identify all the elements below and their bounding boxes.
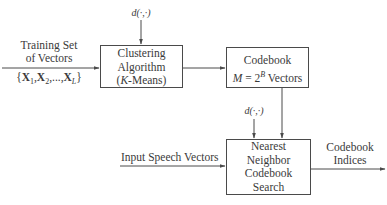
output-label: Codebook Indices: [318, 141, 382, 167]
search-line4: Search: [226, 181, 311, 195]
output-line1: Codebook: [318, 141, 382, 154]
input-speech-label: Input Speech Vectors: [121, 151, 221, 164]
diagram-canvas: [0, 0, 387, 205]
clustering-line2: Algorithm: [100, 61, 183, 75]
search-line1: Nearest: [226, 140, 311, 154]
search-box-text: Nearest Neighbor Codebook Search: [226, 140, 311, 194]
codebook-line2: M = 2B Vectors: [226, 68, 309, 85]
search-line3: Codebook: [226, 167, 311, 181]
training-set-notation: {X1,X2,...,XL}: [4, 71, 94, 88]
codebook-box-text: Codebook M = 2B Vectors: [226, 54, 309, 85]
output-line2: Indices: [318, 154, 382, 167]
training-set-label: Training Set of Vectors: [4, 39, 94, 65]
bottom-distance-label: d(·,·): [239, 104, 269, 117]
search-line2: Neighbor: [226, 154, 311, 168]
clustering-line3: (K-Means): [100, 74, 183, 88]
clustering-box-text: Clustering Algorithm (K-Means): [100, 47, 183, 88]
top-distance-label: d(·,·): [126, 6, 156, 19]
clustering-line1: Clustering: [100, 47, 183, 61]
codebook-line1: Codebook: [226, 54, 309, 68]
training-label-line2: of Vectors: [4, 52, 94, 65]
training-label-line1: Training Set: [4, 39, 94, 52]
